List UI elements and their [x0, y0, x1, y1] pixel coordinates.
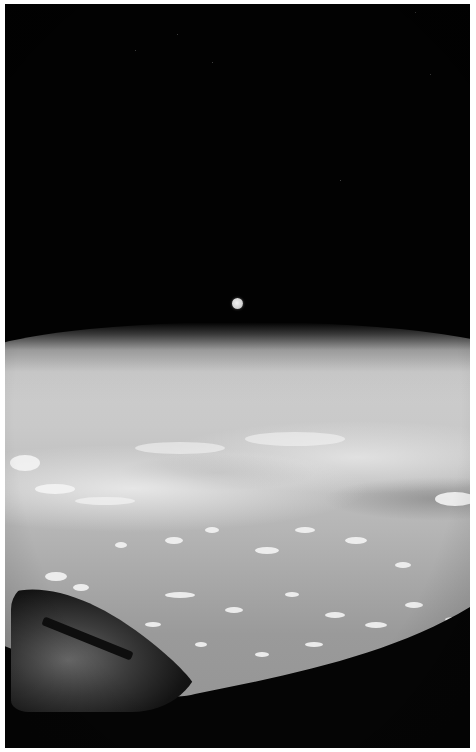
star: [212, 62, 213, 63]
star: [430, 74, 431, 75]
moon: [232, 298, 243, 309]
star: [415, 12, 416, 13]
star: [135, 50, 136, 51]
star: [177, 34, 178, 35]
space-sky: [5, 4, 470, 344]
star: [340, 180, 341, 181]
photo-frame: [5, 4, 470, 748]
